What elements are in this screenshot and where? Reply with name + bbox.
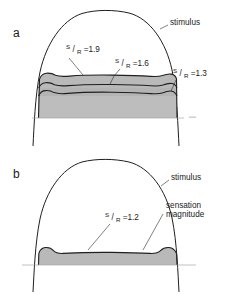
panel-a-stimulus-label: stimulus (170, 18, 200, 27)
panel-a-sr-1-9-label: S / R =1.9 (66, 42, 100, 56)
panel-b-sensation-fill (39, 247, 178, 265)
leader-stimulus-a (160, 25, 168, 29)
sr-1-3-subscript-r: R (184, 72, 189, 79)
panel-a-right-shoulder (177, 79, 178, 118)
panel-a-sr-1-6-label: S / R =1.6 (115, 56, 149, 70)
sr-1-3-slash: / (179, 69, 182, 78)
leader-sensation-magnitude (143, 214, 163, 250)
sr-1-6-superscript-s: S (115, 57, 119, 64)
panel-a-right-speck (189, 117, 196, 118)
svg-text:S / R: S / R =1.6 (115, 56, 149, 70)
leader-sr-1-9 (69, 58, 83, 75)
sr-1-3-value: =1.3 (191, 69, 208, 78)
sr-1-2-value: =1.2 (123, 213, 140, 222)
sr-1-2-subscript-r: R (116, 216, 121, 223)
sr-1-9-value: =1.9 (84, 45, 101, 54)
svg-text:S / R: S / R =1.2 (105, 210, 139, 224)
panel-b-stimulus-label: stimulus (171, 173, 201, 182)
svg-text:S / R: S / R =1.3 (173, 66, 207, 80)
sr-1-9-slash: / (72, 45, 75, 54)
panel-b: b stimulus sensation magnitude S / R =1.… (13, 159, 205, 292)
sr-1-6-value: =1.6 (133, 59, 150, 68)
sr-1-2-superscript-s: S (105, 211, 109, 218)
panel-a-sr-1-3-label: S / R =1.3 (173, 66, 207, 80)
panel-a: a stimulus S / R (13, 10, 207, 146)
sr-1-6-subscript-r: R (126, 62, 131, 69)
panel-b-sensation-label-line2: magnitude (166, 210, 205, 219)
panel-b-right-shoulder (177, 254, 178, 266)
leader-stimulus-b (161, 180, 169, 186)
sr-1-9-subscript-r: R (77, 48, 82, 55)
panel-a-letter: a (13, 26, 20, 40)
svg-text:S / R: S / R =1.9 (66, 42, 100, 56)
sr-1-3-superscript-s: S (173, 67, 177, 74)
panel-b-stimulus-curve (33, 159, 179, 292)
sr-1-9-superscript-s: S (66, 43, 70, 50)
figure-canvas: a stimulus S / R (0, 0, 226, 295)
panel-b-sensation-label-line1: sensation (166, 201, 201, 210)
panel-b-sensation-curve (39, 247, 177, 253)
leader-sr-1-2 (88, 224, 110, 250)
sr-1-2-slash: / (111, 213, 114, 222)
panel-b-letter: b (13, 167, 20, 181)
sr-1-6-slash: / (121, 59, 124, 68)
panel-b-sr-1-2-label: S / R =1.2 (105, 210, 139, 224)
